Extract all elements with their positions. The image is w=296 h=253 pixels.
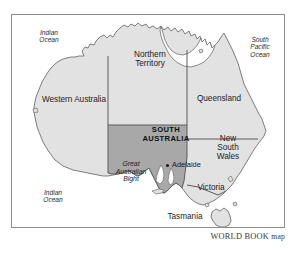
map-credit: WORLD BOOK map — [210, 232, 285, 241]
map-credit-publisher: WORLD BOOK — [210, 232, 269, 241]
australia-map-graphic — [12, 15, 284, 227]
tasmania-offshore-islet-west — [205, 203, 209, 207]
tasmania-offshore-islet-east — [233, 202, 237, 206]
islet-northwest — [33, 108, 38, 113]
map-frame-border — [11, 14, 285, 228]
islet-northeast — [199, 49, 203, 53]
city-dot-adelaide — [166, 164, 169, 167]
south-australia-region — [108, 125, 187, 193]
map-figure: Indian Ocean South Pacific Ocean Indian … — [0, 0, 296, 253]
map-credit-suffix: map — [271, 232, 285, 241]
kangaroo-island — [152, 189, 164, 194]
tasmania-island — [211, 208, 231, 227]
